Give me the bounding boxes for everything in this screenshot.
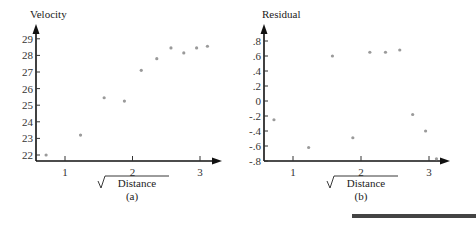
y-axis-label: Velocity	[30, 8, 67, 20]
data-point	[155, 57, 158, 60]
x-axis-label: Distance	[347, 177, 386, 189]
data-point	[195, 46, 198, 49]
y-tick-label: 27	[22, 66, 34, 78]
data-point	[103, 96, 106, 99]
x-axis-arrow-icon	[440, 158, 450, 165]
data-point	[79, 133, 82, 136]
data-point	[140, 69, 143, 72]
chart-panel-a: Velocity2223242526272829123Distance(a)	[22, 8, 222, 203]
chart-panel-b: Residual.8.6.4.20-.2-.4-.6-.8123Distance…	[249, 8, 450, 203]
x-tick-label: 3	[197, 166, 203, 178]
data-point	[331, 54, 334, 57]
y-tick-label: -.6	[249, 140, 261, 152]
x-axis-label: Distance	[118, 177, 157, 189]
data-point	[411, 113, 414, 116]
y-tick-label: 28	[22, 49, 34, 61]
data-point	[272, 118, 275, 121]
data-point	[351, 136, 354, 139]
y-tick-label: 26	[22, 83, 34, 95]
data-point	[384, 51, 387, 54]
y-tick-label: 0	[256, 95, 262, 107]
y-tick-label: 29	[22, 33, 34, 45]
y-tick-label: .2	[253, 80, 261, 92]
y-tick-label: -.2	[249, 110, 261, 122]
x-tick-label: 1	[290, 166, 296, 178]
y-tick-label: .6	[253, 50, 262, 62]
panel-label: (a)	[126, 190, 139, 203]
x-tick-label: 3	[426, 166, 432, 178]
data-point	[169, 46, 172, 49]
y-tick-label: .4	[253, 65, 262, 77]
y-tick-label: 23	[22, 132, 34, 144]
x-tick-label: 1	[62, 166, 68, 178]
data-point	[123, 99, 126, 102]
y-tick-label: 22	[22, 149, 33, 161]
y-axis-arrow-icon	[261, 24, 268, 34]
y-tick-label: 25	[22, 99, 34, 111]
x-axis-arrow-icon	[212, 158, 222, 165]
data-point	[424, 129, 427, 132]
y-tick-label: 24	[22, 116, 34, 128]
y-tick-label: -.4	[249, 125, 261, 137]
decorative-bar	[352, 214, 476, 218]
data-point	[45, 153, 48, 156]
data-point	[435, 157, 438, 160]
y-tick-label: .8	[253, 35, 262, 47]
panel-label: (b)	[355, 190, 368, 203]
y-axis-label: Residual	[262, 8, 301, 20]
data-point	[398, 48, 401, 51]
data-point	[206, 45, 209, 48]
y-axis-arrow-icon	[33, 24, 40, 34]
data-point	[368, 51, 371, 54]
figure-canvas: Velocity2223242526272829123Distance(a)Re…	[0, 0, 476, 226]
y-tick-label: -.8	[249, 155, 261, 167]
data-point	[182, 51, 185, 54]
data-point	[307, 146, 310, 149]
